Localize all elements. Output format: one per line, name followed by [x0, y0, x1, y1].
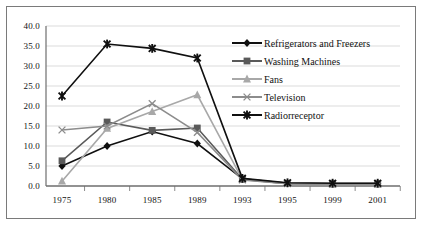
x-axis-tick-label: 1985 — [130, 196, 174, 205]
legend-label: Washing Machines — [262, 56, 340, 67]
legend-label: Radiorreceptor — [262, 110, 324, 121]
legend-label: Refrigerators and Freezers — [262, 38, 370, 49]
y-axis-tick-label: 25.0 — [6, 82, 40, 91]
legend-item: Washing Machines — [232, 52, 412, 70]
x-axis-tick-label: 1980 — [85, 196, 129, 205]
data-point-cross — [244, 94, 251, 101]
y-axis-tick-label: 40.0 — [6, 22, 40, 31]
data-point-diamond — [243, 39, 250, 47]
x-axis-tick-label: 1989 — [175, 196, 219, 205]
data-point-diamond — [104, 142, 111, 150]
chart-legend: Refrigerators and FreezersWashing Machin… — [232, 34, 412, 124]
data-point-square — [149, 127, 156, 134]
legend-item: Fans — [232, 70, 412, 88]
y-axis-tick-label: 20.0 — [6, 102, 40, 111]
legend-item: Television — [232, 88, 412, 106]
data-point-star — [244, 111, 251, 120]
data-point-star — [59, 92, 66, 101]
legend-symbol-triangle-icon — [232, 72, 262, 86]
legend-symbol-cross-icon — [232, 90, 262, 104]
y-axis-tick-label: 30.0 — [6, 62, 40, 71]
legend-label: Fans — [262, 74, 283, 85]
x-axis-tick-label: 1999 — [311, 196, 355, 205]
y-axis-tick-label: 15.0 — [6, 122, 40, 131]
series-line — [62, 132, 378, 184]
legend-symbol-star-icon — [232, 108, 262, 122]
legend-symbol-diamond-icon — [232, 36, 262, 50]
data-point-square — [59, 157, 66, 164]
x-axis-ticks — [85, 186, 401, 191]
x-axis-tick-label: 1975 — [40, 196, 84, 205]
legend-item: Refrigerators and Freezers — [232, 34, 412, 52]
data-point-square — [244, 58, 251, 65]
y-axis-tick-label: 5.0 — [6, 162, 40, 171]
legend-item: Radiorreceptor — [232, 106, 412, 124]
y-axis-tick-label: 35.0 — [6, 42, 40, 51]
y-axis-tick-label: 10.0 — [6, 142, 40, 151]
legend-symbol-square-icon — [232, 54, 262, 68]
legend-label: Television — [262, 92, 306, 103]
data-point-triangle — [243, 75, 251, 83]
x-axis-tick-label: 2001 — [356, 196, 400, 205]
x-axis-tick-label: 1995 — [266, 196, 310, 205]
x-axis-tick-label: 1993 — [220, 196, 264, 205]
data-point-triangle — [193, 90, 201, 98]
y-axis-tick-label: 0.0 — [6, 182, 40, 191]
